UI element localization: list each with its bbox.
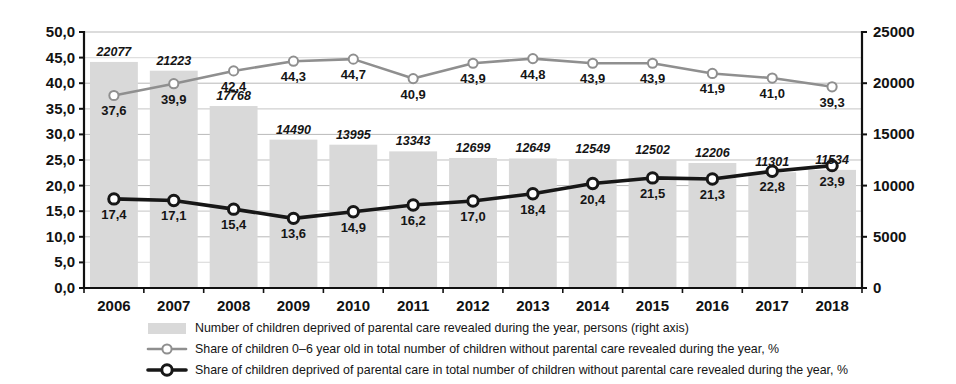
right-axis-tick-label: 0 (873, 279, 881, 296)
bar-value-label: 13343 (396, 134, 431, 148)
left-axis-tick-label: 35,0 (46, 100, 75, 117)
point-value-label: 40,9 (400, 87, 425, 102)
series-marker (289, 57, 298, 66)
point-value-label: 44,3 (281, 69, 306, 84)
bar-value-label: 12549 (575, 142, 610, 156)
point-value-label: 43,9 (460, 71, 485, 86)
series-marker (409, 74, 418, 83)
left-axis-tick-label: 5,0 (54, 253, 75, 270)
bar-value-label: 22077 (96, 45, 133, 59)
point-value-label: 44,8 (520, 67, 545, 82)
series-marker (708, 69, 717, 78)
category-label: 2018 (815, 297, 848, 314)
left-axis-tick-label: 20,0 (46, 177, 75, 194)
series-marker (528, 54, 537, 63)
point-value-label: 21,5 (640, 186, 665, 201)
point-value-label: 13,6 (281, 226, 306, 241)
series-marker (707, 174, 717, 184)
right-axis-tick-label: 20000 (873, 74, 915, 91)
category-label: 2017 (756, 297, 789, 314)
legend-marker (162, 344, 171, 353)
point-value-label: 15,4 (221, 217, 247, 232)
left-axis-tick-label: 0,0 (54, 279, 75, 296)
legend-label: Share of children deprived of parental c… (195, 363, 848, 377)
series-marker (169, 79, 178, 88)
point-value-label: 17,0 (460, 209, 485, 224)
series-marker (647, 173, 657, 183)
series-marker (228, 204, 238, 214)
bar-value-label: 14490 (276, 123, 311, 137)
bar-value-label: 12502 (635, 143, 670, 157)
series-marker (408, 200, 418, 210)
series-marker (528, 189, 538, 199)
legend-label: Share of children 0–6 year old in total … (195, 342, 779, 356)
series-marker (109, 194, 119, 204)
series-marker (648, 59, 657, 68)
legend-item: Share of children deprived of parental c… (148, 363, 848, 377)
category-label: 2016 (696, 297, 729, 314)
bar-value-label: 11534 (815, 153, 849, 167)
category-label: 2008 (217, 297, 250, 314)
series-marker (348, 207, 358, 217)
right-axis-tick-label: 5000 (873, 228, 906, 245)
bar (210, 106, 258, 288)
series-marker (229, 66, 238, 75)
series-marker (827, 82, 836, 91)
point-value-label: 37,6 (101, 103, 126, 118)
category-label: 2013 (516, 297, 549, 314)
category-label: 2014 (576, 297, 610, 314)
point-value-label: 22,8 (760, 179, 785, 194)
point-value-label: 14,9 (341, 220, 366, 235)
series-marker (169, 195, 179, 205)
right-axis-tick-label: 10000 (873, 177, 915, 194)
left-axis-tick-label: 10,0 (46, 228, 75, 245)
left-axis-tick-label: 30,0 (46, 125, 75, 142)
left-axis-tick-label: 25,0 (46, 151, 75, 168)
point-value-label: 44,7 (341, 67, 366, 82)
series-marker (288, 213, 298, 223)
point-value-label: 20,4 (580, 192, 606, 207)
right-axis-tick-label: 25000 (873, 23, 915, 40)
category-label: 2015 (636, 297, 669, 314)
chart-figure: 2207721223177681449013995133431269912649… (0, 0, 956, 384)
series-marker (468, 59, 477, 68)
point-value-label: 17,1 (161, 208, 186, 223)
point-value-label: 16,2 (400, 213, 425, 228)
legend-label: Number of children deprived of parental … (195, 321, 689, 335)
series-marker (468, 196, 478, 206)
point-value-label: 43,9 (580, 71, 605, 86)
bar-value-label: 12649 (515, 141, 550, 155)
legend-swatch (148, 323, 186, 334)
series-marker (587, 178, 597, 188)
legend-item: Share of children 0–6 year old in total … (148, 342, 779, 356)
category-label: 2010 (337, 297, 370, 314)
point-value-label: 39,9 (161, 92, 186, 107)
category-labels: 2006200720082009201020112012201320142015… (97, 297, 849, 314)
point-value-label: 21,3 (700, 187, 725, 202)
right-axis-tick-label: 15000 (873, 125, 915, 142)
category-label: 2006 (97, 297, 130, 314)
category-label: 2011 (397, 297, 430, 314)
left-axis-tick-label: 15,0 (46, 202, 75, 219)
point-value-label: 41,0 (760, 86, 785, 101)
legend-marker (162, 365, 172, 375)
series-marker (349, 55, 358, 64)
point-value-label: 17,4 (101, 207, 127, 222)
point-value-label: 42,4 (221, 79, 247, 94)
category-label: 2007 (157, 297, 190, 314)
point-value-label: 43,9 (640, 71, 665, 86)
bar (509, 158, 557, 288)
series-marker (768, 73, 777, 82)
legend-item: Number of children deprived of parental … (148, 321, 689, 335)
bar-value-label: 13995 (336, 128, 372, 142)
point-value-label: 39,3 (819, 95, 844, 110)
point-value-label: 23,9 (819, 174, 844, 189)
left-axis-tick-label: 40,0 (46, 74, 75, 91)
chart-legend: Number of children deprived of parental … (148, 321, 848, 377)
left-axis-tick-label: 45,0 (46, 49, 75, 66)
bar-value-label: 11301 (755, 155, 789, 169)
category-label: 2012 (456, 297, 489, 314)
chart-container: 2207721223177681449013995133431269912649… (0, 0, 956, 384)
bar-value-label: 12206 (695, 146, 731, 160)
bar-value-label: 12699 (456, 141, 491, 155)
